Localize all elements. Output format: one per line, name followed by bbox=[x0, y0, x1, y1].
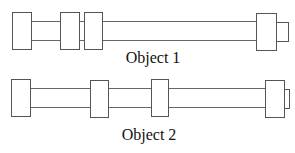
shaft-block bbox=[266, 81, 285, 118]
object-1-shaft-assembly bbox=[13, 13, 289, 51]
shaft-end-stub bbox=[277, 23, 289, 42]
object-2-label: Object 2 bbox=[122, 126, 177, 144]
shaft-end-stub bbox=[285, 90, 290, 109]
object-1-label: Object 1 bbox=[126, 49, 181, 67]
shaft-block bbox=[257, 14, 277, 51]
shaft-block bbox=[152, 80, 169, 117]
object-2-shaft-assembly bbox=[12, 80, 290, 118]
shaft-diagram: Object 1 Object 2 bbox=[0, 0, 295, 153]
shaft-block bbox=[12, 80, 31, 117]
shaft-block bbox=[91, 81, 109, 118]
shaft-block bbox=[13, 13, 32, 50]
shaft-block bbox=[61, 13, 80, 50]
shaft-block bbox=[85, 13, 103, 50]
